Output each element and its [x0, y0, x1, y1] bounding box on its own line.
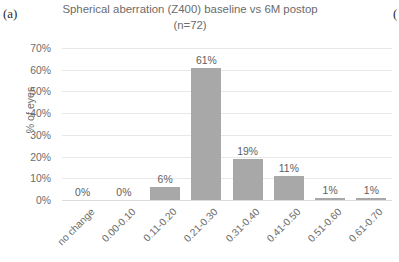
bar-slot: 0% [62, 48, 103, 200]
bar-slot: 19% [227, 48, 268, 200]
panel-label-a: (a) [3, 6, 17, 22]
y-tick-label: 40% [5, 108, 51, 119]
x-tick-label: 0.00-0.10 [99, 206, 137, 244]
y-tick-label: 60% [5, 64, 51, 75]
y-tick-label: 10% [5, 173, 51, 184]
x-tick-label: 0.41-0.50 [264, 206, 302, 244]
bar[interactable] [191, 68, 221, 200]
y-tick-label: 50% [5, 86, 51, 97]
bar-slot: 11% [268, 48, 309, 200]
x-axis-ticks: no change0.00-0.100.11-0.200.21-0.300.31… [62, 200, 392, 262]
bar[interactable] [233, 159, 263, 200]
bar-value-label: 6% [158, 174, 173, 185]
bar-value-label: 11% [279, 163, 299, 174]
bar-value-label: 1% [364, 185, 379, 196]
x-tick-label: no change [55, 206, 96, 247]
figure-panel-a: (a) ( Spherical aberration (Z400) baseli… [0, 0, 399, 262]
x-tick-label: 0.51-0.60 [306, 206, 344, 244]
x-tick-label: 0.11-0.20 [141, 206, 179, 244]
bar-value-label: 0% [75, 187, 90, 198]
bar-slot: 1% [310, 48, 351, 200]
bar[interactable] [274, 176, 304, 200]
y-tick-label: 30% [5, 129, 51, 140]
panel-label-b-partial: ( [393, 6, 399, 22]
y-tick-label: 70% [5, 43, 51, 54]
chart-title: Spherical aberration (Z400) baseline vs … [46, 2, 334, 33]
y-tick-label: 0% [5, 195, 51, 206]
bar-value-label: 61% [196, 55, 217, 66]
y-tick-label: 20% [5, 151, 51, 162]
bar-value-label: 1% [323, 185, 338, 196]
bar-value-label: 0% [116, 187, 131, 198]
bar-slot: 0% [103, 48, 144, 200]
bar-value-label: 19% [237, 146, 258, 157]
bar-slot: 1% [351, 48, 392, 200]
bar[interactable] [150, 187, 180, 200]
x-tick-label: 0.61-0.70 [347, 206, 385, 244]
bar-slot: 61% [186, 48, 227, 200]
x-tick-label: 0.31-0.40 [223, 206, 261, 244]
x-tick-label: 0.21-0.30 [182, 206, 220, 244]
bar-series: 0%0%6%61%19%11%1%1% [62, 48, 392, 200]
plot-area: 0%10%20%30%40%50%60%70% 0%0%6%61%19%11%1… [62, 48, 392, 200]
bar-slot: 6% [145, 48, 186, 200]
